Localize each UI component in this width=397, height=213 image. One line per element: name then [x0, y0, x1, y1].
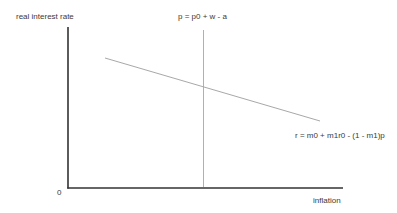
- sloped-demand-line: [105, 58, 320, 121]
- y-axis-label: real interest rate: [16, 13, 74, 21]
- vertical-line-label: p = p0 + w - a: [178, 13, 227, 21]
- x-axis-label: inflation: [313, 197, 341, 205]
- sloped-line-label: r = m0 + m1r0 - (1 - m1)p: [295, 132, 385, 140]
- diagram-canvas: [0, 0, 397, 213]
- origin-label: 0: [57, 189, 61, 197]
